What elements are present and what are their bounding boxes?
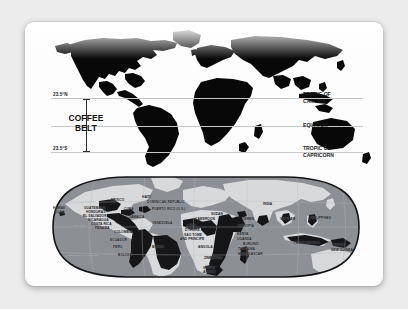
country-label: VENEZUELA [152,222,172,226]
country-label: MEXICO [111,199,124,203]
country-label: PANAMA [95,227,110,231]
country-label: VIETNAM [280,218,295,222]
country-label: PERU [113,246,122,250]
coffee-belt-card: 23.5°N 23.5°S COFFEE BELT TROPIC OF CANC… [25,22,383,286]
country-label: ECUADOR [110,239,127,243]
country-label: ANGOLA [198,246,213,250]
grid-label-tropic-cancer: TROPIC OF CANCER [69,200,95,203]
country-label: COLOMBIA [114,231,132,235]
country-label: AND PRINCIPE [180,238,204,242]
tropic-of-cancer-line2: CANCER [303,98,331,105]
coffee-belt-label: COFFEE BELT [59,113,113,133]
tropic-of-capricorn-label: TROPIC OF CAPRICORN [303,145,334,158]
lower-producer-map: TROPIC OF CANCER EQUATOR TROPIC OF CAPRI… [35,174,375,280]
equator-label: EQUATOR [303,122,328,129]
tropic-of-capricorn-line2: CAPRICORN [303,152,334,159]
country-label: INDONESIA [294,241,321,245]
country-label: (U.S.) [55,211,64,215]
country-label: NEW GUINEA [331,249,353,253]
country-label: ZIMBABWE [204,257,223,261]
coffee-belt-label-line1: COFFEE [59,113,113,123]
country-label: CUBA [124,208,134,212]
country-label: BOLIVIA [118,254,132,258]
country-label: YEMEN [242,218,254,222]
producer-map-svg [35,174,375,280]
tropic-of-cancer-line1: TROPIC OF [303,91,331,98]
tropic-of-cancer-label: TROPIC OF CANCER [303,91,331,104]
country-label: AFRICA [203,271,216,275]
upper-world-map: 23.5°N 23.5°S COFFEE BELT TROPIC OF CANC… [25,26,383,176]
latitude-label-south: 23.5°S [53,146,67,151]
country-label: PHILIPPINES [310,217,331,221]
latitude-label-north: 23.5°N [53,92,68,97]
country-label: INDIA [263,203,272,207]
grid-label-equator: EQUATOR [73,224,86,227]
country-label: PUERTO RICO (U.S.) [152,208,185,212]
country-label: JAMAICA [129,216,144,220]
tropic-of-capricorn-line1: TROPIC OF [303,145,334,152]
country-label: DOMINICAN REPUBLIC [147,201,185,205]
coffee-belt-label-line2: BELT [59,123,113,133]
country-label: ETHIOPIA [238,225,254,229]
country-label: CAMEROON [195,218,215,222]
grid-label-tropic-capricorn: TROPIC OF CAPRICORN [67,254,98,257]
screenshot-root: 23.5°N 23.5°S COFFEE BELT TROPIC OF CANC… [0,0,408,309]
country-label: BRAZIL [152,246,164,250]
country-label: MADAGASCAR [238,253,263,257]
country-label: SUDAN [211,213,223,217]
